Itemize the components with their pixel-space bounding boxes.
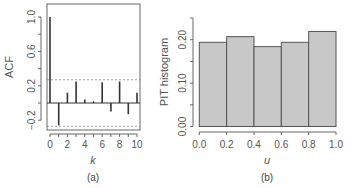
acf-spikes [50, 17, 137, 125]
pit-x-tick-label: 1.0 [329, 139, 343, 150]
acf-x-tick-label: 0 [47, 139, 53, 150]
pit-x-axis: 0.00.20.40.60.81.0 [192, 132, 343, 150]
acf-x-axis: 0246810 [47, 134, 143, 150]
pit-histogram-panel: 0.000.100.20 0.00.20.40.60.81.0 PIT hist… [158, 18, 343, 183]
histogram-bar [199, 42, 226, 126]
histogram-bar [309, 31, 336, 126]
acf-plot-frame [47, 4, 140, 130]
histogram-bar [227, 37, 254, 127]
acf-x-tick-label: 4 [82, 139, 88, 150]
pit-x-axis-title: u [264, 154, 270, 166]
panel-label-b: (b) [261, 172, 273, 183]
acf-y-axis: −0.20.20.61.0 [26, 10, 41, 130]
acf-y-tick-label: 0.6 [26, 44, 37, 58]
histogram-bar [281, 42, 308, 126]
pit-x-tick-label: 0.0 [192, 139, 206, 150]
pit-x-tick-label: 0.4 [247, 139, 261, 150]
acf-y-tick-label: −0.2 [26, 110, 37, 130]
acf-y-tick-label: 1.0 [26, 10, 37, 24]
pit-y-tick-label: 0.10 [177, 73, 188, 93]
pit-x-tick-label: 0.8 [302, 139, 316, 150]
acf-panel: −0.20.20.61.0 0246810 ACF k (a) [3, 4, 143, 183]
pit-y-tick-label: 0.20 [177, 30, 188, 50]
acf-y-tick-label: 0.2 [26, 78, 37, 92]
pit-bars [199, 31, 336, 126]
pit-y-axis: 0.000.100.20 [177, 18, 193, 136]
acf-x-tick-label: 10 [131, 139, 143, 150]
pit-x-tick-label: 0.6 [274, 139, 288, 150]
panel-label-a: (a) [87, 172, 99, 183]
acf-x-axis-title: k [90, 154, 96, 166]
pit-y-tick-label: 0.00 [177, 116, 188, 136]
pit-y-axis-title: PIT histogram [158, 38, 170, 106]
pit-x-tick-label: 0.2 [220, 139, 234, 150]
acf-x-tick-label: 8 [117, 139, 123, 150]
acf-y-axis-title: ACF [3, 56, 15, 78]
figure: −0.20.20.61.0 0246810 ACF k (a) 0.000.10… [0, 0, 359, 188]
acf-x-tick-label: 2 [65, 139, 71, 150]
histogram-bar [254, 47, 281, 127]
acf-x-tick-label: 6 [99, 139, 105, 150]
